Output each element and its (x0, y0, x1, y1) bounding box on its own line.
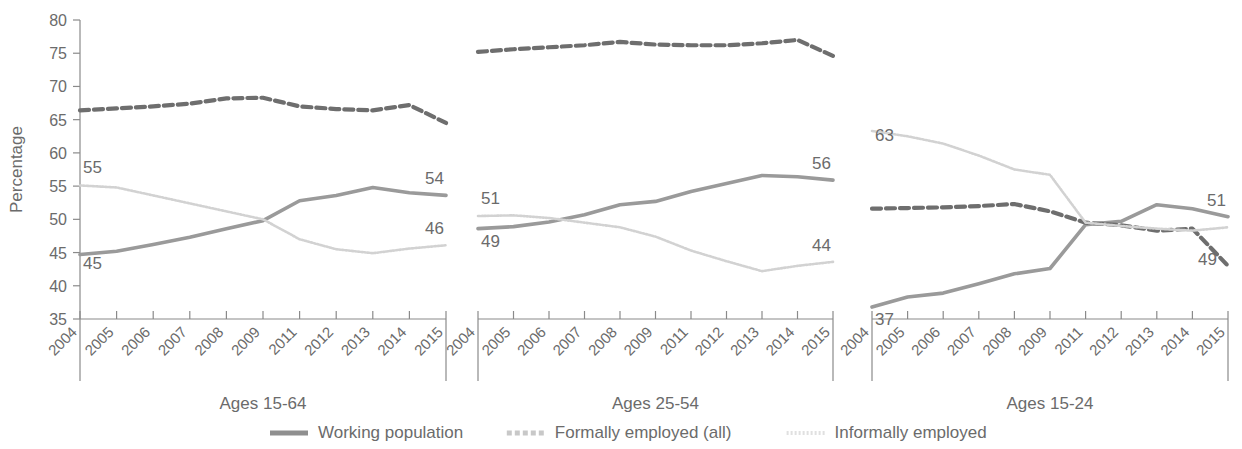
series-end-value-label: 51 (1207, 191, 1226, 210)
panel-ages-15-64: 2004200520062007200820092011201220132014… (45, 98, 447, 413)
series-line-working-population (872, 205, 1228, 307)
series-end-value-label: 46 (425, 219, 444, 238)
x-tick-label: 2012 (1086, 323, 1122, 359)
y-tick-label: 75 (49, 45, 67, 62)
series-start-value-label: 55 (83, 158, 102, 177)
series-line-working-population (478, 175, 833, 228)
y-tick-label: 40 (49, 278, 67, 295)
x-tick-label: 2011 (656, 323, 691, 358)
series-end-value-label: 54 (425, 169, 444, 188)
x-tick-label: 2007 (154, 323, 190, 359)
x-tick-label: 2009 (1015, 323, 1051, 359)
x-tick-label: 2014 (762, 323, 798, 359)
y-tick-label: 65 (49, 112, 67, 129)
x-tick-label: 2015 (798, 323, 834, 359)
panel-title: Ages 25-54 (612, 394, 699, 413)
series-line-formally-employed-all- (80, 98, 446, 123)
y-tick-label: 60 (49, 145, 67, 162)
series-start-value-label: 45 (83, 254, 102, 273)
series-start-value-label: 63 (875, 126, 894, 145)
series-start-value-label: 49 (481, 232, 500, 251)
x-tick-label: 2008 (979, 323, 1015, 359)
legend-label: Formally employed (all) (555, 423, 732, 442)
legend: Working populationFormally employed (all… (270, 423, 987, 442)
x-tick-label: 2012 (301, 323, 337, 359)
chart-figure: 35404550556065707580Percentage2004200520… (0, 0, 1242, 449)
panel-title: Ages 15-24 (1007, 394, 1094, 413)
x-tick-label: 2009 (620, 323, 656, 359)
x-tick-label: 2008 (191, 323, 227, 359)
y-tick-label: 70 (49, 78, 67, 95)
multi-panel-line-chart: 35404550556065707580Percentage2004200520… (0, 0, 1242, 449)
y-tick-label: 45 (49, 245, 67, 262)
x-tick-label: 2004 (45, 323, 81, 359)
x-tick-label: 2013 (727, 323, 763, 359)
x-tick-label: 2008 (585, 323, 621, 359)
x-tick-label: 2007 (549, 323, 585, 359)
x-tick-label: 2009 (228, 323, 264, 359)
series-line-informally-employed (872, 131, 1228, 231)
y-tick-label: 80 (49, 12, 67, 29)
y-axis: 35404550556065707580Percentage (7, 12, 80, 328)
x-tick-label: 2007 (943, 323, 979, 359)
series-end-value-label: 56 (812, 154, 831, 173)
y-tick-label: 55 (49, 178, 67, 195)
series-line-formally-employed-all- (478, 40, 833, 56)
panel-ages-15-24: 2004200520062007200820092011201220132014… (837, 126, 1229, 413)
legend-label: Informally employed (835, 423, 987, 442)
series-start-value-label: 37 (875, 310, 894, 329)
y-tick-label: 50 (49, 211, 67, 228)
x-tick-label: 2006 (514, 323, 550, 359)
series-end-value-label: 49 (1198, 250, 1217, 269)
panel-title: Ages 15-64 (220, 394, 307, 413)
series-line-working-population (80, 187, 446, 254)
x-tick-label: 2005 (478, 323, 514, 359)
panel-ages-25-54: 2004200520062007200820092011201220132014… (443, 40, 834, 413)
x-tick-label: 2004 (443, 323, 479, 359)
series-line-formally-employed-all- (872, 204, 1228, 266)
x-tick-label: 2013 (337, 323, 373, 359)
series-start-value-label: 51 (481, 189, 500, 208)
series-line-informally-employed (80, 185, 446, 253)
x-tick-label: 2014 (374, 323, 410, 359)
x-tick-label: 2006 (908, 323, 944, 359)
x-tick-label: 2006 (118, 323, 154, 359)
x-tick-label: 2011 (1051, 323, 1086, 358)
legend-label: Working population (318, 423, 463, 442)
x-tick-label: 2015 (411, 323, 447, 359)
x-tick-label: 2004 (837, 323, 873, 359)
y-axis-title: Percentage (7, 126, 26, 213)
series-end-value-label: 44 (812, 236, 831, 255)
x-tick-label: 2012 (691, 323, 727, 359)
x-tick-label: 2005 (81, 323, 117, 359)
x-tick-label: 2014 (1157, 323, 1193, 359)
x-tick-label: 2013 (1121, 323, 1157, 359)
x-tick-label: 2011 (265, 323, 300, 358)
x-tick-label: 2015 (1193, 323, 1229, 359)
